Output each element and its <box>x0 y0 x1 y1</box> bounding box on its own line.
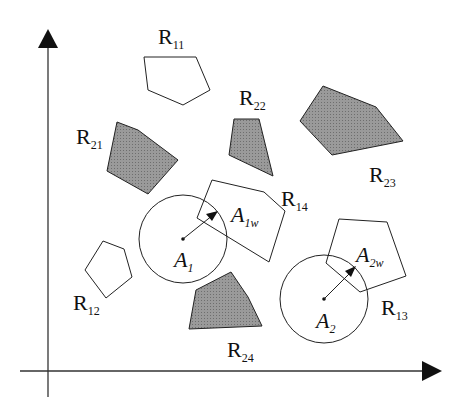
label-r21: R21 <box>76 126 103 151</box>
label-a2: A2 <box>316 310 335 335</box>
label-r14: R14 <box>281 188 308 213</box>
label-r12: R12 <box>73 292 100 317</box>
label-a1w: A1w <box>231 204 258 229</box>
label-a1: A1 <box>174 249 193 274</box>
y-axis-arrowhead-icon <box>38 29 58 48</box>
region-r11 <box>144 57 210 105</box>
y-axis <box>38 29 58 397</box>
label-r13: R13 <box>381 297 408 322</box>
x-axis-arrowhead-icon <box>422 361 442 381</box>
x-axis <box>20 361 442 381</box>
region-r12 <box>85 241 132 298</box>
region-r21 <box>107 122 178 194</box>
label-r23: R23 <box>369 164 396 189</box>
label-r24: R24 <box>227 339 254 364</box>
diagram-canvas: R11 R12 R13 R14 R21 R22 R23 R24 A1 A1w A… <box>0 0 462 415</box>
region-r24 <box>189 272 262 329</box>
region-r23 <box>300 86 403 155</box>
label-a2w: A2w <box>356 244 383 269</box>
a2-direction-arrow-icon <box>345 266 356 277</box>
label-r11: R11 <box>158 26 184 51</box>
region-r22 <box>229 119 273 176</box>
label-r22: R22 <box>239 87 266 112</box>
